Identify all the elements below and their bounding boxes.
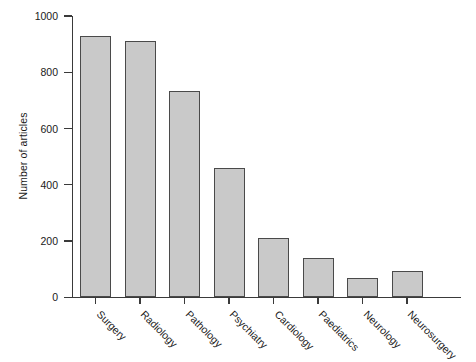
y-axis-tick-label: 400 — [0, 179, 58, 191]
bar — [303, 258, 334, 297]
bar — [347, 278, 378, 297]
x-axis-label: Psychiatry — [228, 308, 236, 316]
x-axis-label: Radiology — [139, 308, 147, 316]
x-axis-tick — [317, 297, 318, 304]
x-axis-label: Paediatrics — [317, 308, 325, 316]
x-axis-tick — [362, 297, 363, 304]
bar — [214, 168, 245, 297]
x-axis-tick — [95, 297, 96, 304]
x-axis-tick — [406, 297, 407, 304]
x-axis-label: Neurology — [361, 308, 369, 316]
y-axis-tick-label: 200 — [0, 235, 58, 247]
y-axis-tick — [64, 297, 72, 298]
y-axis-tick — [64, 15, 72, 16]
y-axis-tick-label: 800 — [0, 66, 58, 78]
x-axis-label: Neurosurgery — [406, 308, 414, 316]
y-axis-tick — [64, 72, 72, 73]
y-axis-tick-label: 1000 — [0, 10, 58, 22]
y-axis-tick-label: 0 — [0, 291, 58, 303]
x-axis-label: Pathology — [183, 308, 191, 316]
y-axis-tick — [64, 128, 72, 129]
x-axis-label: Cardiology — [272, 308, 280, 316]
x-axis-tick — [228, 297, 229, 304]
bar — [258, 238, 289, 297]
x-axis-tick — [139, 297, 140, 304]
x-axis-label: Surgery — [94, 308, 102, 316]
bar — [169, 91, 200, 298]
y-axis-title: Number of articles — [17, 86, 29, 226]
bar — [125, 41, 156, 297]
bar — [80, 36, 111, 298]
y-axis-tick-label: 600 — [0, 123, 58, 135]
x-axis-tick — [273, 297, 274, 304]
bar-chart: Number of articles 02004006008001000 Sur… — [0, 0, 476, 362]
bar — [392, 271, 423, 298]
y-axis-tick — [64, 240, 72, 241]
x-axis-tick — [184, 297, 185, 304]
y-axis-line — [72, 16, 73, 298]
y-axis-tick — [64, 184, 72, 185]
